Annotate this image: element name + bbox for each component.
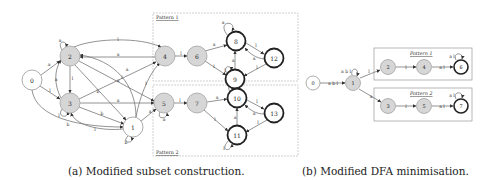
edge-label: a b l: [328, 81, 338, 86]
edge-label: a l: [449, 54, 455, 59]
edge-7-11: [204, 110, 228, 131]
svg-text:0: 0: [30, 77, 34, 84]
state-node: 4: [155, 46, 175, 66]
state-node: 3: [60, 93, 80, 113]
caption-b: (b) Modified DFA minimisation.: [302, 165, 469, 177]
subfigure-a: Pattern 1 Pattern 2 a l b a l a l l a a: [22, 13, 298, 156]
pattern-1-label-b: Pattern 1: [409, 51, 433, 56]
edge-label: a: [253, 56, 256, 61]
edge-label: a: [370, 94, 373, 99]
svg-text:2: 2: [386, 64, 389, 70]
svg-text:7: 7: [459, 103, 462, 109]
edge-label: l: [179, 98, 181, 103]
state-node: 9: [226, 70, 245, 89]
edge-label: a l: [449, 93, 455, 98]
state-node: 0: [306, 76, 320, 90]
svg-text:2: 2: [68, 53, 72, 60]
state-node: 2: [60, 46, 80, 66]
svg-text:1: 1: [351, 80, 354, 86]
edge-label: l: [58, 113, 60, 118]
figure-canvas: Pattern 1 Pattern 2 a l b a l a l l a a: [0, 0, 494, 180]
edge-label: a: [232, 58, 235, 63]
edge-label: b: [67, 122, 70, 127]
svg-text:4: 4: [422, 64, 425, 70]
edge-12-9: [244, 64, 266, 76]
edge-label: a l: [439, 65, 445, 70]
state-node: 11: [228, 126, 247, 145]
edge-label: l: [213, 64, 215, 69]
state-node: 6: [454, 60, 468, 74]
state-node: 8: [227, 32, 246, 51]
svg-text:11: 11: [233, 132, 241, 139]
edge-label: l: [180, 51, 182, 56]
state-node: 5: [417, 99, 432, 114]
edge-label: a: [213, 42, 216, 47]
subfigure-b: Pattern 1 Pattern 2 a b l a b l l a l a …: [306, 48, 472, 121]
svg-text:6: 6: [195, 53, 199, 60]
svg-text:13: 13: [270, 110, 278, 117]
svg-text:4: 4: [163, 53, 167, 60]
state-node: 3: [381, 99, 396, 114]
state-node: 13: [265, 104, 284, 123]
svg-text:9: 9: [233, 76, 237, 83]
edge-label: l: [405, 65, 407, 70]
state-node: 1: [123, 117, 143, 137]
pattern-1-label-a: Pattern 1: [156, 15, 179, 20]
edge-label: l: [405, 104, 407, 109]
svg-text:0: 0: [311, 80, 314, 86]
edge-label: a: [222, 20, 225, 25]
svg-text:5: 5: [422, 103, 425, 109]
state-node: 2: [381, 60, 396, 75]
edge-b-7-7-loop: [455, 93, 462, 99]
svg-text:6: 6: [459, 64, 462, 70]
edge-label: l: [214, 117, 216, 122]
edge-label: l: [49, 88, 51, 93]
edge-6-8: [205, 45, 227, 51]
svg-text:7: 7: [195, 100, 199, 107]
state-node: 1: [346, 76, 361, 91]
state-node: 7: [454, 99, 468, 113]
state-node: 7: [187, 93, 207, 113]
edge-b-1-2: [360, 70, 380, 78]
svg-text:3: 3: [68, 100, 72, 107]
edge-label: l: [72, 76, 74, 81]
edge-label: l: [255, 43, 257, 48]
state-node: 10: [228, 89, 247, 108]
edge-label: a: [117, 98, 120, 103]
edge-label: a: [216, 95, 219, 100]
edge-label: a: [126, 67, 129, 72]
edge-1-2: [80, 55, 136, 117]
edge-label: b: [101, 111, 104, 116]
edge-label: a l: [439, 104, 445, 109]
svg-text:8: 8: [234, 38, 238, 45]
edge-label: l: [256, 65, 258, 70]
svg-text:1: 1: [131, 124, 135, 131]
edge-b-1-1-loop: [352, 69, 358, 76]
state-node: 5: [154, 93, 174, 113]
state-node: 6: [187, 46, 207, 66]
svg-text:5: 5: [162, 100, 166, 107]
edge-label: a: [117, 52, 120, 57]
state-node: 12: [265, 49, 284, 68]
edge-label: a: [234, 115, 237, 120]
edge-label: l: [368, 69, 370, 74]
svg-text:3: 3: [386, 103, 389, 109]
edge-label: l: [256, 99, 258, 104]
state-node: 0: [22, 70, 42, 90]
edge-label: a: [48, 62, 51, 67]
edge-label: b: [125, 140, 128, 145]
state-node: 4: [417, 60, 432, 75]
pattern-2-label-a: Pattern 2: [156, 150, 179, 155]
pattern-2-label-b: Pattern 2: [409, 91, 433, 96]
edge-label: a b l: [341, 69, 351, 74]
edge-label: a: [149, 109, 152, 114]
edge-6-9: [205, 61, 226, 75]
edge-label: a: [55, 77, 58, 82]
caption-a: (a) Modified subset construction.: [68, 165, 245, 177]
edge-label: a: [59, 38, 62, 43]
svg-text:12: 12: [270, 55, 278, 62]
edge-label: a: [163, 117, 166, 122]
edge-label: a: [253, 111, 256, 116]
edge-b-6-6-loop: [455, 54, 462, 60]
svg-text:10: 10: [233, 95, 241, 102]
